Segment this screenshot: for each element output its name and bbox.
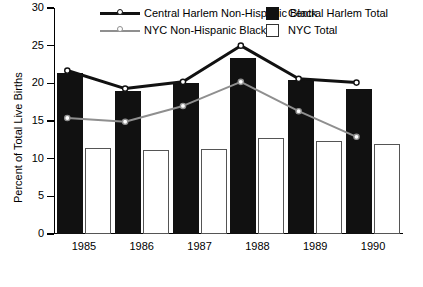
y-tick-label: 0 bbox=[14, 228, 44, 239]
y-tick-mark bbox=[47, 233, 54, 234]
y-tick-label: 10 bbox=[14, 153, 44, 164]
y-tick-label: 15 bbox=[14, 115, 44, 126]
y-tick-label: 30 bbox=[14, 2, 44, 13]
bar-nyc-total-1985 bbox=[85, 148, 111, 234]
chart-container: Central Harlem Non-Hispanic Black Centra… bbox=[0, 0, 423, 287]
y-axis-title: Percent of Total Live Births bbox=[12, 72, 24, 203]
x-tick-label: 1990 bbox=[343, 240, 403, 252]
y-tick-mark bbox=[47, 83, 54, 84]
bar-central-harlem-total-1985 bbox=[57, 73, 83, 234]
x-tick-label: 1985 bbox=[54, 240, 114, 252]
bar-central-harlem-total-1988 bbox=[230, 58, 256, 234]
bar-central-harlem-total-1986 bbox=[115, 91, 141, 234]
y-tick-mark bbox=[47, 158, 54, 159]
y-tick-mark bbox=[47, 120, 54, 121]
y-tick-label: 20 bbox=[14, 77, 44, 88]
bar-central-harlem-total-1987 bbox=[173, 83, 199, 234]
y-tick-mark bbox=[47, 45, 54, 46]
bar-central-harlem-total-1989 bbox=[288, 80, 314, 234]
bar-nyc-total-1990 bbox=[374, 144, 400, 234]
y-tick-mark bbox=[47, 196, 54, 197]
y-tick-label: 5 bbox=[14, 190, 44, 201]
bar-nyc-total-1987 bbox=[201, 149, 227, 234]
x-tick-label: 1987 bbox=[170, 240, 230, 252]
bar-central-harlem-total-1990 bbox=[346, 89, 372, 234]
y-tick-label: 25 bbox=[14, 40, 44, 51]
y-tick-mark bbox=[47, 7, 54, 8]
bars-layer bbox=[55, 8, 402, 234]
bar-nyc-total-1986 bbox=[143, 150, 169, 234]
bar-nyc-total-1988 bbox=[258, 138, 284, 234]
bar-nyc-total-1989 bbox=[316, 141, 342, 234]
x-tick-label: 1989 bbox=[285, 240, 345, 252]
x-tick-label: 1988 bbox=[227, 240, 287, 252]
x-tick-label: 1986 bbox=[112, 240, 172, 252]
